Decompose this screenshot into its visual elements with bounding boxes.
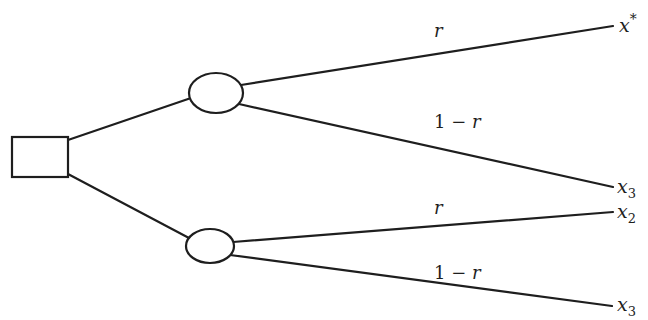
edge-upper-branch-1 bbox=[241, 26, 613, 85]
edge-upper-branch-2 bbox=[239, 104, 613, 187]
edge-lower-branch-2 bbox=[230, 255, 612, 306]
edge-decision-to-lower-chance bbox=[68, 174, 189, 238]
edge-decision-to-upper-chance bbox=[68, 98, 191, 140]
prob-label-upper-2: 1 − r bbox=[434, 111, 482, 132]
prob-label-lower-2: 1 − r bbox=[434, 262, 482, 283]
outcome-label-x2: x2 bbox=[617, 200, 636, 226]
edge-lower-branch-1 bbox=[233, 212, 613, 242]
decision-tree-diagram: r 1 − r r 1 − r x* x3 x2 x3 bbox=[0, 0, 648, 320]
chance-node-lower bbox=[186, 229, 234, 263]
outcome-label-x-star: x* bbox=[619, 11, 637, 36]
prob-label-lower-1: r bbox=[434, 197, 444, 218]
outcome-label-x3-lower: x3 bbox=[617, 293, 636, 319]
prob-label-upper-1: r bbox=[434, 20, 444, 41]
chance-node-upper bbox=[189, 73, 243, 113]
outcome-label-x3-upper: x3 bbox=[617, 175, 636, 201]
decision-node-square bbox=[12, 137, 68, 177]
